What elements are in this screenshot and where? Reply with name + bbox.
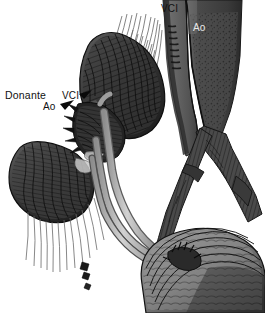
illustration-figure: Donante VCI Ao VCI Ao xyxy=(0,0,265,313)
label-ao-donor: Ao xyxy=(43,101,56,112)
label-donante: Donante xyxy=(5,90,46,101)
label-vci-vena-cava: VCI xyxy=(161,3,178,14)
anatomical-illustration xyxy=(0,0,265,313)
label-ao-aorta: Ao xyxy=(193,22,206,33)
label-vci-donor: VCI xyxy=(62,90,79,101)
